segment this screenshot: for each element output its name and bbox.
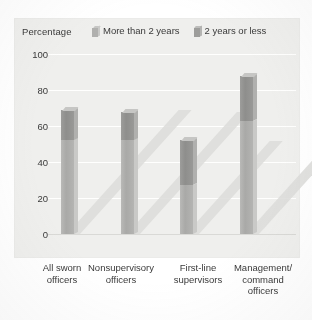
x-axis-labels: All sworn officers Nonsupervisory office… (14, 262, 300, 314)
legend-item-2-years-or-less: 2 years or less (194, 25, 267, 37)
y-axis-title: Percentage (22, 26, 72, 37)
plot-area: 100 80 60 40 20 0 (14, 18, 300, 258)
legend-label: More than 2 years (103, 25, 180, 36)
bar-side-face (134, 138, 138, 234)
bar-side-face (74, 138, 78, 234)
bar-segment-more-than-2-years (61, 140, 74, 234)
bar-side-face (134, 110, 138, 141)
xlabel-management-command-officers: Management/ command officers (224, 262, 302, 297)
chart-panel: 100 80 60 40 20 0 (14, 18, 300, 258)
chart-header: Percentage More than 2 years (14, 18, 300, 48)
bar-segment-2-years-or-less (240, 76, 253, 121)
bar-segment-more-than-2-years (121, 140, 134, 234)
bar-segment-more-than-2-years (240, 121, 253, 234)
bar-side-face (193, 138, 197, 185)
xlabel-line-2: command (224, 274, 302, 286)
legend: More than 2 years 2 years or less (92, 25, 266, 37)
xlabel-line-1: Management/ (224, 262, 302, 274)
bar-segment-more-than-2-years (180, 185, 193, 234)
bar-segment-2-years-or-less (61, 110, 74, 141)
legend-label: 2 years or less (205, 25, 267, 36)
xlabel-line-1: Nonsupervisory (76, 262, 166, 274)
bars-layer (14, 18, 300, 258)
legend-swatch-icon (194, 26, 202, 37)
ytick-label-0: 0 (22, 229, 48, 240)
bar-stack (240, 76, 253, 234)
ytick-label-100: 100 (22, 49, 48, 60)
chart-image: 100 80 60 40 20 0 (0, 0, 312, 320)
bar-stack (61, 110, 74, 234)
xlabel-nonsupervisory-officers: Nonsupervisory officers (76, 262, 166, 285)
xlabel-line-2: officers (76, 274, 166, 286)
bar-segment-2-years-or-less (121, 112, 134, 141)
bar-side-face (193, 183, 197, 234)
bar-top-face (181, 137, 197, 141)
bar-side-face (253, 74, 257, 121)
bar-top-face (241, 73, 257, 77)
bar-top-face (62, 107, 78, 111)
ytick-label-60: 60 (22, 121, 48, 132)
bar-stack (180, 140, 193, 234)
xlabel-line-3: officers (224, 285, 302, 297)
bar-stack (121, 112, 134, 234)
ytick-label-80: 80 (22, 85, 48, 96)
legend-swatch-icon (92, 26, 100, 37)
ytick-label-40: 40 (22, 157, 48, 168)
bar-top-face (122, 109, 138, 113)
bar-segment-2-years-or-less (180, 140, 193, 185)
bar-side-face (74, 108, 78, 141)
legend-item-more-than-2-years: More than 2 years (92, 25, 180, 37)
bar-side-face (253, 119, 257, 234)
ytick-label-20: 20 (22, 193, 48, 204)
